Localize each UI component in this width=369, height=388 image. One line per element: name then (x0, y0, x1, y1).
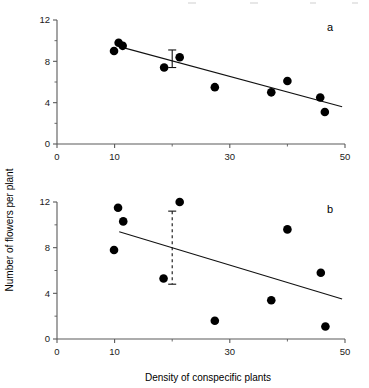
x-tick-label: 30 (225, 151, 236, 162)
y-tick-label: 0 (45, 138, 50, 149)
data-point (321, 322, 330, 331)
x-tick-label: 10 (109, 151, 120, 162)
y-tick-label: 12 (39, 196, 50, 207)
panel-letter-label: a (327, 21, 334, 33)
data-point (267, 296, 276, 305)
x-tick-label: 50 (340, 151, 351, 162)
figure-root: 048120103050a 048120103050b Number of fl… (0, 0, 369, 388)
x-tick-label: 10 (109, 346, 120, 357)
data-point (321, 108, 330, 117)
y-tick-label: 8 (45, 56, 50, 67)
data-point (283, 77, 292, 86)
y-tick-label: 8 (45, 242, 50, 253)
x-tick-label: 30 (225, 346, 236, 357)
y-tick-label: 4 (45, 97, 50, 108)
regression-line (120, 47, 342, 107)
data-point (211, 316, 220, 325)
data-point (175, 53, 184, 62)
data-point (110, 246, 119, 255)
data-point (316, 93, 325, 102)
data-point (267, 88, 276, 97)
panel-letter-label: b (327, 203, 333, 215)
data-point (114, 203, 123, 212)
data-point (159, 274, 168, 283)
data-point (119, 217, 128, 226)
data-point (317, 268, 326, 277)
y-axis-label: Number of flowers per plant (4, 168, 15, 291)
x-tick-label: 0 (54, 346, 59, 357)
data-point (175, 198, 184, 207)
x-axis-label: Density of conspecific plants (145, 372, 271, 383)
y-tick-label: 12 (39, 14, 50, 25)
data-point (118, 42, 127, 51)
x-tick-label: 0 (54, 151, 59, 162)
panel-b: 048120103050b (39, 196, 350, 357)
data-point (160, 63, 169, 72)
regression-line (119, 232, 342, 299)
data-point (110, 47, 119, 56)
data-point (283, 225, 292, 234)
y-tick-label: 0 (45, 333, 50, 344)
data-point (211, 83, 220, 92)
x-tick-label: 50 (340, 346, 351, 357)
panel-a: 048120103050a (39, 14, 350, 162)
y-tick-label: 4 (45, 288, 50, 299)
